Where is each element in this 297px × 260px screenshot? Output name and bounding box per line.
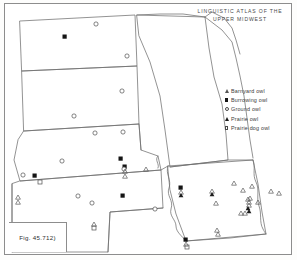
legend-label-burrowing-owl: Burrowing owl (231, 97, 267, 103)
legend-item-prairie-dog-owl: Prairie dog owl (222, 124, 288, 133)
map-title-line-1: LINGUISTIC ATLAS OF THE (196, 7, 284, 15)
map-symbols (16, 22, 282, 249)
legend-label-barnyard-owl: Barnyard owl (231, 88, 265, 94)
legend-item-prairie-owl: Prairie owl (222, 114, 288, 123)
filled-triangle-icon (222, 117, 231, 121)
legend-item-burrowing-owl: Burrowing owl (222, 95, 288, 104)
figure-screenshot: LINGUISTIC ATLAS OF THE UPPER MIDWEST Ba… (0, 0, 297, 260)
legend-label-prairie-owl: Prairie owl (231, 116, 258, 122)
map-title: LINGUISTIC ATLAS OF THE UPPER MIDWEST (196, 7, 284, 23)
legend-item-barnyard-owl: Barnyard owl (222, 86, 288, 95)
legend-item-ground-owl: Ground owl (222, 105, 288, 114)
open-square-icon (222, 126, 231, 130)
figure-caption: Fig. 45.712) (19, 234, 56, 241)
map-title-line-2: UPPER MIDWEST (196, 15, 284, 23)
legend-label-ground-owl: Ground owl (231, 106, 261, 112)
map-legend: Barnyard owl Burrowing owl Ground owl Pr… (222, 86, 288, 133)
legend-label-prairie-dog-owl: Prairie dog owl (231, 125, 270, 131)
figure-caption-box: Fig. 45.712) (9, 222, 67, 252)
open-triangle-icon (222, 89, 231, 93)
filled-square-icon (222, 98, 231, 102)
open-circle-icon (222, 107, 231, 111)
